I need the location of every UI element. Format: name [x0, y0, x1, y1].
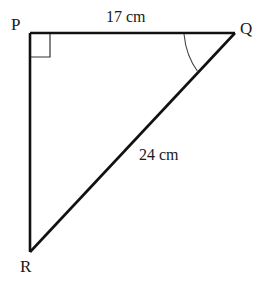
angle-arc-q — [184, 34, 198, 72]
vertex-label-p: P — [11, 15, 20, 34]
triangle-diagram: P Q R 17 cm 24 cm — [0, 0, 272, 296]
side-qr — [30, 33, 235, 252]
vertex-label-q: Q — [240, 19, 252, 38]
right-angle-marker — [31, 34, 50, 57]
vertex-label-r: R — [20, 257, 32, 276]
side-label-pq: 17 cm — [106, 8, 146, 25]
side-label-qr: 24 cm — [139, 146, 179, 163]
